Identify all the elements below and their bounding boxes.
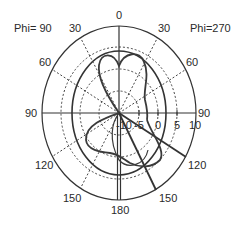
angle-label-60-left: 60 xyxy=(39,56,51,68)
angle-label-0: 0 xyxy=(116,9,122,21)
angle-label-60-right: 60 xyxy=(186,56,198,68)
angle-label-120-right: 120 xyxy=(188,159,206,171)
corner-label-left: Phi= 90 xyxy=(14,22,52,34)
radial-label-minus10: -10 xyxy=(116,119,132,131)
corner-label-right: Phi=270 xyxy=(190,22,231,34)
angle-label-120-left: 120 xyxy=(35,159,53,171)
angle-label-180: 180 xyxy=(111,204,129,216)
radial-label-10: 10 xyxy=(189,119,201,131)
radial-label-5: 5 xyxy=(174,119,180,131)
angle-label-30-right: 30 xyxy=(158,22,170,34)
angle-label-90-right: 90 xyxy=(198,107,210,119)
radial-label-minus5: -5 xyxy=(134,119,144,131)
radial-label-0: 0 xyxy=(155,119,161,131)
angle-label-150-right: 150 xyxy=(159,192,177,204)
angle-label-90-left: 90 xyxy=(25,107,37,119)
polar-chart: Phi= 90 Phi=270 0 30 60 90 120 150 180 3… xyxy=(0,0,238,229)
angle-label-150-left: 150 xyxy=(63,192,81,204)
angle-label-30-left: 30 xyxy=(69,22,81,34)
